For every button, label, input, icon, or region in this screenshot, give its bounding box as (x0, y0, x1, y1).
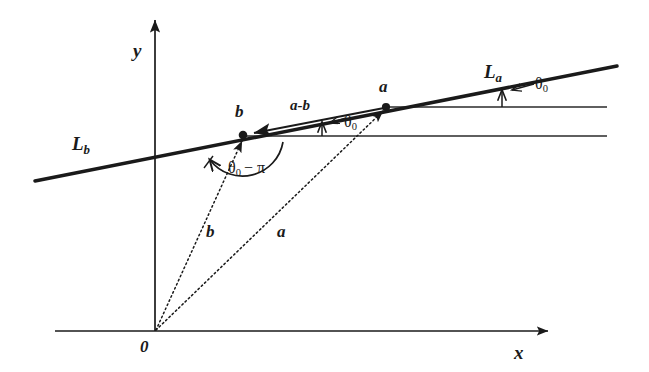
diagram-svg (0, 0, 649, 372)
x-axis-label: x (514, 343, 524, 362)
line-la-base: L (484, 61, 496, 82)
angle-theta-b-subscript: 0 (236, 167, 241, 178)
angle-theta-ab-label: θ0 (344, 114, 357, 133)
point-a-label: a (379, 78, 388, 95)
line-lb-label: Lb (72, 134, 90, 157)
y-axis-label: y (133, 41, 141, 60)
axis-group (55, 20, 548, 331)
point-a-dot (382, 103, 390, 111)
line-lb-base: L (72, 133, 84, 154)
angle-theta-b-symbol: θ (228, 159, 236, 176)
line-la-subscript: a (496, 70, 502, 85)
vector-a-label: a (277, 223, 286, 240)
angle-theta-la-symbol: θ (535, 75, 543, 92)
line-la-label: La (484, 62, 502, 85)
thick-line-la-lb (35, 66, 617, 181)
origin-label: 0 (140, 338, 149, 355)
point-b-dot (239, 131, 248, 140)
line-lb-subscript: b (84, 142, 90, 157)
point-b-label: b (235, 103, 244, 120)
vector-a-arrow (156, 111, 383, 330)
figure-canvas: y x 0 Lb La b a b a a-b θ0 θ0 θ0− π (0, 0, 649, 372)
vector-b-label: b (206, 223, 215, 240)
angle-theta-ab-subscript: 0 (352, 121, 357, 132)
angle-theta-b-interior-label: θ0− π (228, 160, 265, 179)
angle-theta-la-label: θ0 (535, 76, 548, 95)
vector-a-minus-b-label: a-b (290, 98, 310, 113)
angle-theta-b-rest: − π (244, 159, 265, 176)
angle-theta-la-subscript: 0 (543, 83, 548, 94)
position-vector-group (156, 111, 383, 330)
angle-theta-ab-symbol: θ (344, 113, 352, 130)
